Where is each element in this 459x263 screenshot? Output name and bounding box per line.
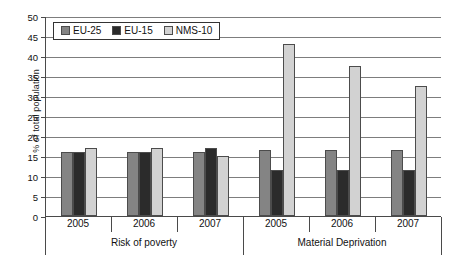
bar-nms-10-2006-4 — [349, 66, 361, 216]
legend-item-eu-15: EU-15 — [112, 25, 152, 36]
bar-nms-10-2005-3 — [283, 44, 295, 216]
y-tick-label-40: 40 — [27, 52, 38, 63]
x-group-label-1: Material Deprivation — [298, 237, 387, 248]
group-divider-6 — [441, 217, 442, 255]
chart-legend: EU-25 EU-15 NMS-10 — [53, 22, 220, 40]
y-tick-label-25: 25 — [27, 112, 38, 123]
bar-eu-15-2007-2 — [205, 148, 217, 216]
x-category-label-2: 2007 — [199, 218, 221, 229]
bar-eu-25-2005-3 — [259, 150, 271, 216]
y-tick-label-45: 45 — [27, 32, 38, 43]
y-tick-label-5: 5 — [33, 192, 38, 203]
y-tick-label-35: 35 — [27, 72, 38, 83]
bar-eu-25-2007-2 — [193, 152, 205, 216]
category-divider-4 — [309, 217, 310, 232]
legend-label-nms-10: NMS-10 — [176, 25, 213, 36]
y-tick-label-50: 50 — [27, 12, 38, 23]
bar-eu-15-2007-5 — [403, 170, 415, 216]
bar-eu-15-2006-4 — [337, 170, 349, 216]
series-2-swatch-icon — [164, 26, 173, 35]
bar-eu-15-2006-1 — [139, 152, 151, 216]
bars-layer — [46, 17, 441, 216]
y-tick-label-0: 0 — [33, 212, 38, 223]
bar-nms-10-2005-0 — [85, 148, 97, 216]
bar-eu-15-2005-3 — [271, 170, 283, 216]
category-divider-2 — [177, 217, 178, 232]
group-divider-0 — [45, 217, 46, 255]
bar-eu-25-2005-0 — [61, 152, 73, 216]
category-divider-1 — [111, 217, 112, 232]
x-axis: 200520062007200520062007Risk of povertyM… — [45, 217, 441, 259]
bar-nms-10-2007-5 — [415, 86, 427, 216]
x-group-label-0: Risk of poverty — [111, 237, 177, 248]
legend-label-eu-25: EU-25 — [73, 25, 101, 36]
x-category-label-3: 2005 — [265, 218, 287, 229]
bar-nms-10-2007-2 — [217, 156, 229, 216]
bar-eu-15-2005-0 — [73, 152, 85, 216]
plot-area: 05101520253035404550 — [45, 17, 441, 217]
series-0-swatch-icon — [61, 26, 70, 35]
category-divider-5 — [375, 217, 376, 232]
legend-label-eu-15: EU-15 — [124, 25, 152, 36]
bar-nms-10-2006-1 — [151, 148, 163, 216]
y-tick-label-15: 15 — [27, 152, 38, 163]
y-tick-label-30: 30 — [27, 92, 38, 103]
legend-item-nms-10: NMS-10 — [164, 25, 213, 36]
bar-eu-25-2006-1 — [127, 152, 139, 216]
group-divider-3 — [243, 217, 244, 255]
bar-chart: % of total population 051015202530354045… — [0, 0, 459, 263]
x-category-label-0: 2005 — [67, 218, 89, 229]
x-category-label-1: 2006 — [133, 218, 155, 229]
x-category-label-4: 2006 — [331, 218, 353, 229]
x-category-label-5: 2007 — [397, 218, 419, 229]
y-tick-label-10: 10 — [27, 172, 38, 183]
legend-item-eu-25: EU-25 — [61, 25, 101, 36]
bar-eu-25-2007-5 — [391, 150, 403, 216]
series-1-swatch-icon — [112, 26, 121, 35]
bar-eu-25-2006-4 — [325, 150, 337, 216]
y-tick-label-20: 20 — [27, 132, 38, 143]
